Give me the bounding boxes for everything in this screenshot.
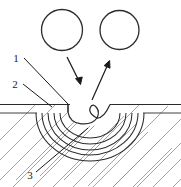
weld-crater-profile bbox=[68, 105, 110, 124]
electrode-circle-right bbox=[100, 11, 139, 50]
callout-label-2: 2 bbox=[12, 78, 18, 90]
callout-label-3: 3 bbox=[27, 169, 33, 181]
incidence-arrow-right bbox=[92, 61, 110, 101]
electrode-circle-left bbox=[42, 10, 83, 51]
technical-diagram-figure: 1 2 3 bbox=[0, 0, 181, 187]
diagram-canvas: 1 2 3 bbox=[0, 0, 181, 187]
incidence-arrow-left bbox=[67, 57, 82, 85]
callout-label-1: 1 bbox=[13, 52, 19, 64]
callout-leader-lines bbox=[23, 58, 88, 172]
